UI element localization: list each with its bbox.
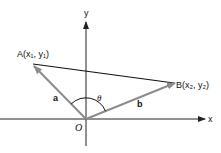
- x-axis-label: x: [208, 114, 213, 124]
- vector-a-label: a: [53, 93, 59, 103]
- vector-b-label: b: [137, 99, 143, 109]
- vector-a: [34, 66, 86, 119]
- angle-theta-label: θ: [97, 93, 102, 103]
- segment-ab: [33, 64, 174, 83]
- y-axis-label: y: [84, 8, 89, 18]
- vector-angle-diagram: y x O A(x₁, y₁) B(x₂, y₂) a b θ: [0, 0, 221, 153]
- point-b-label: B(x₂, y₂): [176, 80, 209, 90]
- origin-label: O: [75, 122, 82, 133]
- point-a-label: A(x₁, y₁): [17, 49, 49, 59]
